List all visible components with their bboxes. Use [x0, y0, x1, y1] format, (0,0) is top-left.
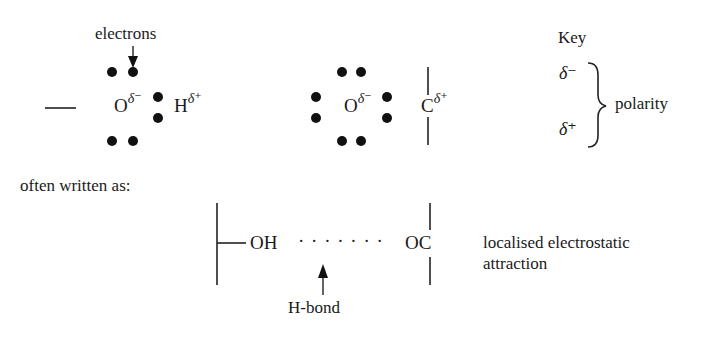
electron-dot	[382, 113, 392, 123]
key-delta-minus: δ⁻	[559, 62, 577, 84]
carbonyl-oxygen: Oδ⁻	[344, 95, 372, 117]
water-hydrogen: Hδ⁺	[174, 95, 202, 117]
diagram-lines	[0, 0, 701, 343]
electron-dot	[107, 67, 117, 77]
hbond-arrow-head	[318, 264, 328, 278]
electron-dot	[128, 67, 138, 77]
electrons-label: electrons	[95, 24, 156, 44]
acceptor-group: OC	[405, 232, 431, 254]
electron-dot	[128, 136, 138, 146]
description-line1: localised electrostatic	[483, 233, 630, 253]
electron-dot	[311, 92, 321, 102]
carbon-partial-charge: δ⁺	[434, 91, 448, 106]
electron-dot	[311, 113, 321, 123]
shorthand-intro: often written as:	[20, 176, 130, 196]
oxygen-partial-charge: δ⁻	[128, 91, 142, 106]
electron-dot	[337, 67, 347, 77]
hydrogen-bond-dots: · · · · · · ·	[298, 230, 384, 252]
description-line2: attraction	[483, 254, 547, 274]
electron-dot	[153, 92, 163, 102]
water-oxygen: Oδ⁻	[114, 95, 142, 117]
electron-dot	[337, 136, 347, 146]
oxygen-symbol: O	[114, 95, 128, 116]
key-title: Key	[558, 28, 586, 48]
carbonyl-carbon: Cδ⁺	[421, 95, 448, 117]
electron-dot	[107, 136, 117, 146]
hydrogen-symbol: H	[174, 95, 188, 116]
oxygen-symbol: O	[344, 95, 358, 116]
electron-dot	[356, 67, 366, 77]
key-polarity-label: polarity	[615, 94, 668, 114]
electron-dot	[356, 136, 366, 146]
key-delta-plus: δ⁺	[559, 118, 577, 140]
electron-dot	[153, 113, 163, 123]
oxygen-partial-charge: δ⁻	[358, 91, 372, 106]
hydrogen-partial-charge: δ⁺	[188, 91, 202, 106]
key-brace	[588, 63, 606, 147]
donor-group: OH	[250, 232, 277, 254]
carbon-symbol: C	[421, 95, 434, 116]
electron-dot	[382, 92, 392, 102]
hbond-label: H-bond	[288, 298, 340, 318]
